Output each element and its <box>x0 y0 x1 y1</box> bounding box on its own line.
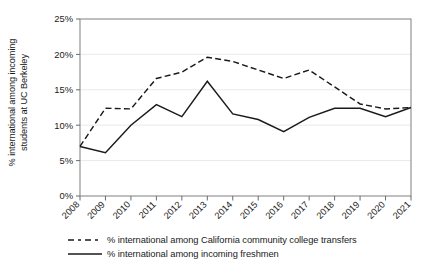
x-tick-label: 2015 <box>238 199 260 221</box>
series-line-transfers <box>80 57 411 146</box>
y-tick-label: 10% <box>54 120 73 131</box>
y-tick-label: 0% <box>59 190 73 201</box>
x-tick-label: 2011 <box>137 199 158 220</box>
plot-border <box>80 19 411 196</box>
y-tick-label: 20% <box>54 49 73 60</box>
y-tick-label: 5% <box>59 155 73 166</box>
x-tick-label: 2020 <box>365 199 387 221</box>
x-tick-label: 2012 <box>162 199 184 221</box>
x-tick-label: 2009 <box>85 199 107 221</box>
x-tick-label: 2008 <box>60 199 82 221</box>
legend-swatch-solid <box>68 249 102 259</box>
legend-swatch-dashed <box>68 235 102 245</box>
chart-figure: % international among incoming students … <box>0 0 430 274</box>
y-tick-label: 25% <box>54 13 73 24</box>
legend-item-transfers: % international among California communi… <box>68 233 357 247</box>
x-tick-label: 2016 <box>264 199 286 221</box>
x-tick-label: 2019 <box>340 199 362 221</box>
chart-legend: % international among California communi… <box>68 233 357 261</box>
legend-label-transfers: % international among California communi… <box>107 235 357 245</box>
x-tick-label: 2014 <box>213 199 235 221</box>
x-tick-label: 2018 <box>314 199 336 221</box>
x-tick-label: 2010 <box>111 199 133 221</box>
x-tick-label: 2017 <box>289 199 311 221</box>
y-tick-label: 15% <box>54 84 73 95</box>
series-line-freshmen <box>80 81 411 153</box>
x-tick-label: 2013 <box>187 199 209 221</box>
x-tick-label: 2021 <box>391 199 413 221</box>
plot-area: 0%5%10%15%20%25%200820092010201120122013… <box>0 0 430 234</box>
legend-item-freshmen: % international among incoming freshmen <box>68 247 357 261</box>
legend-label-freshmen: % international among incoming freshmen <box>107 249 279 259</box>
